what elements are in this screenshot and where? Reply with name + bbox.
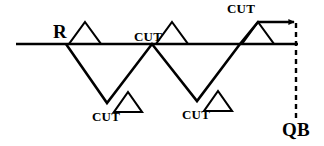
cut-label-top: CUT	[227, 2, 255, 15]
cut-label-mid: CUT	[134, 30, 162, 43]
triangle-marker-top-right	[242, 22, 274, 44]
cut-label-bottom-left: CUT	[92, 110, 120, 123]
cut-label-bottom-right: CUT	[182, 108, 210, 121]
quarterback-label: QB	[282, 120, 310, 139]
route-diagram-canvas	[0, 0, 324, 146]
triangle-marker-start	[69, 22, 101, 44]
receiver-label: R	[53, 22, 67, 41]
route-diagram: R CUT CUT CUT CUT QB	[0, 0, 324, 146]
